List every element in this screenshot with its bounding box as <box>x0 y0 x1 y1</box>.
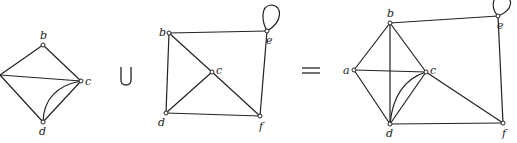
label-f: f <box>258 120 265 133</box>
node-d <box>388 122 392 126</box>
node-c <box>210 70 214 74</box>
label-d: d <box>386 127 393 140</box>
graph-union-diagram: b c d b c d e f <box>0 0 517 143</box>
label-d: d <box>39 125 46 138</box>
edge-d-f <box>166 113 260 116</box>
edge-a-b <box>0 45 43 75</box>
node-f <box>501 121 505 125</box>
edge-b-e <box>390 16 498 23</box>
edge-a-d <box>0 75 43 122</box>
node-d <box>164 111 168 115</box>
label-b: b <box>40 29 47 42</box>
union-symbol-icon <box>121 67 131 85</box>
node-f <box>258 114 262 118</box>
label-e: e <box>497 19 504 32</box>
edge-b-e <box>169 31 267 33</box>
graph-3: a b c d e f <box>343 0 511 140</box>
graph-1: b c d <box>0 29 91 138</box>
loop-e <box>263 5 280 31</box>
node-a <box>352 68 356 72</box>
node-b <box>167 31 171 35</box>
edge-c-d <box>166 72 212 113</box>
label-f: f <box>501 127 508 140</box>
label-a: a <box>343 64 350 77</box>
edge-b-c <box>43 45 81 81</box>
edge-e-f <box>498 16 503 123</box>
label-c: c <box>430 64 436 77</box>
edge-d-f <box>390 123 503 124</box>
label-c: c <box>85 75 91 88</box>
edge-a-d <box>354 70 390 124</box>
node-e <box>265 29 269 33</box>
edge-b-c <box>169 33 212 72</box>
node-c <box>424 70 428 74</box>
edge-c-f <box>212 72 260 116</box>
edge-c-d <box>390 72 426 124</box>
label-c: c <box>216 64 222 77</box>
label-b: b <box>387 7 394 20</box>
edge-c-f <box>426 72 503 123</box>
node-b <box>41 43 45 47</box>
edge-a-c <box>0 75 81 81</box>
label-b: b <box>159 26 166 39</box>
graph-2: b c d e f <box>158 5 280 133</box>
edge-a-b <box>354 23 390 70</box>
edge-b-d <box>166 33 169 113</box>
node-e <box>496 14 500 18</box>
loop-e <box>493 0 510 16</box>
node-d <box>41 120 45 124</box>
label-e: e <box>266 34 273 47</box>
node-c <box>79 79 83 83</box>
edge-b-c <box>390 23 426 72</box>
node-b <box>388 21 392 25</box>
label-d: d <box>158 116 165 129</box>
